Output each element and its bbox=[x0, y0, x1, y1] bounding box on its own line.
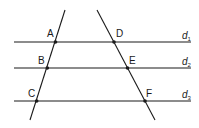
point-e bbox=[126, 66, 130, 70]
label-d3: d3 bbox=[182, 89, 192, 101]
point-f bbox=[143, 99, 147, 103]
label-b: B bbox=[38, 55, 45, 66]
label-f: F bbox=[146, 88, 152, 99]
point-a bbox=[54, 40, 58, 44]
label-e: E bbox=[129, 55, 136, 66]
label-d1: d1 bbox=[182, 30, 192, 42]
transversal-left bbox=[30, 10, 65, 120]
parallel-lines-diagram: A B C D E F d1 d2 d3 bbox=[0, 0, 199, 128]
label-c: C bbox=[28, 88, 35, 99]
label-a: A bbox=[47, 28, 54, 39]
point-c bbox=[35, 99, 39, 103]
label-d2: d2 bbox=[182, 56, 192, 68]
point-d bbox=[112, 40, 116, 44]
transversal-right bbox=[97, 10, 155, 120]
point-b bbox=[46, 66, 50, 70]
label-d: D bbox=[116, 28, 123, 39]
